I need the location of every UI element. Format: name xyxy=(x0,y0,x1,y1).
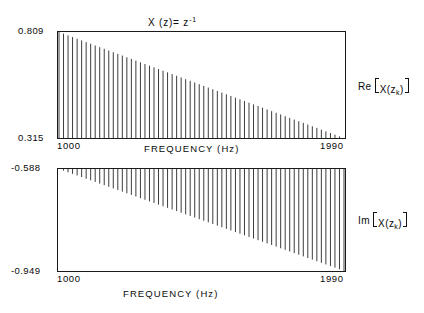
plot-area-imag xyxy=(57,168,346,272)
chart-title: X (z)= z-1 xyxy=(148,16,197,28)
im-prefix: Im xyxy=(358,215,370,226)
x-axis-title-imag: FREQUENCY (Hz) xyxy=(123,289,218,299)
bracket-open-icon xyxy=(375,78,379,93)
x-tick-left-imag: 1000 xyxy=(57,274,81,284)
x-tick-right-imag: 1990 xyxy=(320,274,344,284)
x-axis-title-real: FREQUENCY (Hz) xyxy=(144,144,239,154)
y-tick-top-imag: -0.588 xyxy=(11,163,40,173)
re-body: X(z xyxy=(380,84,396,95)
panel-imag-part: -0.588 -0.949 1000 1990 FREQUENCY (Hz) I… xyxy=(0,155,424,313)
bracket-close-icon xyxy=(405,78,409,93)
re-prefix: Re xyxy=(358,81,372,92)
panel-real-part: X (z)= z-1 0.809 0.315 1000 1990 FREQUEN… xyxy=(0,0,424,155)
y-tick-top-real: 0.809 xyxy=(18,26,44,36)
im-suffix: ) xyxy=(398,218,402,229)
re-suffix: ) xyxy=(400,84,404,95)
y-tick-bottom-real: 0.315 xyxy=(18,133,44,143)
chart-title-text: X (z)= z xyxy=(148,17,189,28)
x-tick-right-real: 1990 xyxy=(320,141,344,151)
x-tick-left-real: 1000 xyxy=(57,141,81,151)
bracket-close-icon xyxy=(403,212,407,227)
bracket-open-icon xyxy=(373,212,377,227)
stem-plot-real xyxy=(58,32,345,138)
im-body: X(z xyxy=(378,218,394,229)
y-axis-title-real: Re X(zk) xyxy=(358,78,409,96)
stem-plot-imag xyxy=(58,169,345,271)
y-axis-title-imag: Im X(zk) xyxy=(358,212,407,230)
chart-title-exponent: -1 xyxy=(189,16,197,23)
y-tick-bottom-imag: -0.949 xyxy=(11,266,40,276)
plot-area-real xyxy=(57,31,346,139)
figure-canvas: X (z)= z-1 0.809 0.315 1000 1990 FREQUEN… xyxy=(0,0,424,313)
